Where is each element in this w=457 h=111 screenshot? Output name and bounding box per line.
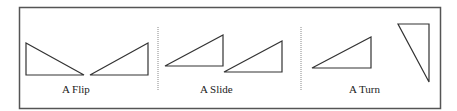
- turn-triangle-original: [312, 37, 371, 68]
- flip-triangle-original: [26, 43, 84, 75]
- slide-triangle-original: [165, 35, 223, 66]
- slide-triangle-translated: [224, 41, 282, 72]
- label-turn: A Turn: [349, 83, 380, 95]
- flip-triangle-reflected: [90, 43, 148, 75]
- turn-triangle-rotated: [398, 24, 429, 82]
- label-flip: A Flip: [62, 83, 90, 95]
- label-slide: A Slide: [200, 83, 233, 95]
